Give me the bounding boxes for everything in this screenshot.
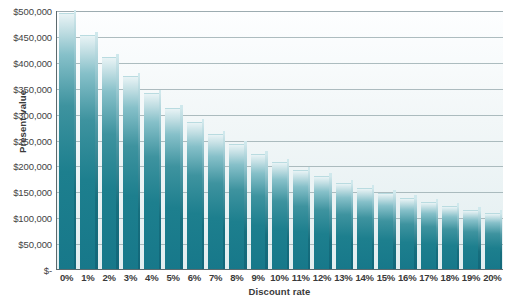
bar-front-face: [144, 93, 159, 269]
x-axis-tick-label: 20%: [482, 272, 503, 283]
y-axis-tick-label: $100,000: [13, 213, 52, 224]
bar: [442, 203, 459, 269]
bar-side-face: [159, 94, 161, 269]
bar: [357, 185, 374, 269]
x-axis-tick-label: 11%: [290, 272, 311, 283]
x-axis-tick-label: 9%: [248, 272, 269, 283]
x-axis-tick-label: 0%: [56, 272, 77, 283]
bar-side-face: [478, 211, 480, 269]
bar-top-face: [74, 10, 76, 14]
x-axis-tick-label: 5%: [162, 272, 183, 283]
bar-top-face: [95, 32, 97, 36]
bar: [80, 32, 97, 269]
y-axis-tick-labels: $-$50,000$100,000$150,000$200,000$250,00…: [0, 0, 55, 297]
bar-side-face: [244, 145, 246, 269]
y-axis-tick-label: $450,000: [13, 31, 52, 42]
bar-front-face: [251, 154, 266, 269]
bar: [485, 210, 502, 269]
bar-side-face: [308, 171, 310, 269]
bar-front-face: [229, 144, 244, 269]
x-axis-tick-label: 13%: [333, 272, 354, 283]
bar-side-face: [436, 203, 438, 269]
bar: [293, 167, 310, 269]
bar-front-face: [378, 193, 393, 269]
bar-top-face: [436, 199, 438, 203]
bar-chart: Present value $-$50,000$100,000$150,000$…: [0, 0, 507, 297]
bar-top-face: [202, 119, 204, 123]
bar-top-face: [159, 90, 161, 94]
bar-top-face: [265, 151, 267, 155]
bar-top-face: [478, 207, 480, 211]
bar-front-face: [293, 170, 308, 269]
bar-front-face: [102, 57, 117, 269]
x-axis-tick-label: 14%: [354, 272, 375, 283]
bar-side-face: [138, 77, 140, 269]
bar-side-face: [116, 58, 118, 269]
bar: [165, 105, 182, 269]
bar: [400, 195, 417, 269]
bars-layer: [57, 11, 503, 269]
x-axis-title: Discount rate: [56, 286, 503, 297]
bar-side-face: [202, 123, 204, 269]
y-axis-tick-label: $200,000: [13, 161, 52, 172]
bar-top-face: [116, 54, 118, 58]
bar-top-face: [308, 167, 310, 171]
bar: [102, 54, 119, 269]
bar-top-face: [287, 159, 289, 163]
y-axis-tick-label: $50,000: [18, 239, 52, 250]
bar: [144, 90, 161, 269]
bar-front-face: [421, 202, 436, 269]
bar: [123, 73, 140, 269]
bar: [59, 10, 76, 269]
bar-front-face: [463, 210, 478, 269]
x-axis-tick-label: 2%: [99, 272, 120, 283]
bar: [314, 173, 331, 269]
bar: [187, 119, 204, 269]
bar-top-face: [329, 173, 331, 177]
x-axis-tick-label: 7%: [205, 272, 226, 283]
bar-top-face: [223, 131, 225, 135]
bar: [208, 131, 225, 269]
bar: [463, 207, 480, 269]
y-axis-tick-label: $400,000: [13, 57, 52, 68]
bar-side-face: [372, 189, 374, 269]
x-axis-tick-label: 8%: [226, 272, 247, 283]
bar-top-face: [372, 185, 374, 189]
x-axis-tick-label: 10%: [269, 272, 290, 283]
x-axis-tick-label: 19%: [460, 272, 481, 283]
x-axis-tick-label: 15%: [375, 272, 396, 283]
x-axis-tick-label: 3%: [120, 272, 141, 283]
x-axis-tick-label: 6%: [184, 272, 205, 283]
bar-front-face: [80, 35, 95, 269]
bar-top-face: [180, 105, 182, 109]
bar-front-face: [314, 176, 329, 269]
bar: [272, 159, 289, 269]
bar-top-face: [351, 180, 353, 184]
y-axis-tick-label: $-: [44, 265, 52, 276]
bar-side-face: [351, 184, 353, 269]
bar-front-face: [442, 206, 457, 269]
x-axis-tick-label: 18%: [439, 272, 460, 283]
bar: [229, 141, 246, 269]
bar-top-face: [244, 141, 246, 145]
bar-front-face: [165, 108, 180, 269]
bar-side-face: [500, 214, 502, 269]
x-axis-tick-label: 4%: [141, 272, 162, 283]
bar-front-face: [357, 188, 372, 269]
y-axis-tick-label: $250,000: [13, 135, 52, 146]
bar-side-face: [95, 36, 97, 269]
bar-side-face: [457, 207, 459, 269]
bar-top-face: [500, 210, 502, 214]
bar-front-face: [272, 162, 287, 269]
bar-front-face: [187, 122, 202, 269]
y-axis-tick-label: $350,000: [13, 83, 52, 94]
bar-front-face: [208, 134, 223, 269]
bar-front-face: [123, 76, 138, 269]
plot-area: [56, 11, 503, 270]
bar: [421, 199, 438, 269]
x-axis-tick-label: 16%: [397, 272, 418, 283]
y-axis-tick-label: $300,000: [13, 109, 52, 120]
bar-front-face: [400, 198, 415, 269]
x-axis-tick-label: 17%: [418, 272, 439, 283]
bar-front-face: [336, 183, 351, 269]
